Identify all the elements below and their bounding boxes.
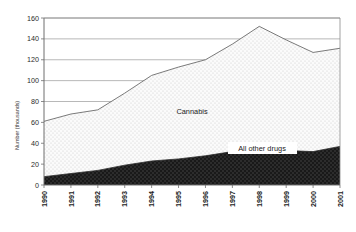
y-tick-label: 80 bbox=[31, 97, 39, 106]
x-tick-label-1998: 1998 bbox=[255, 191, 264, 207]
series-label-all-other-drugs: All other drugs bbox=[238, 144, 286, 153]
y-axis-label: Number (thousands) bbox=[14, 101, 20, 150]
x-axis-ticks: 1990199119921993199419951996199719981999… bbox=[40, 185, 345, 207]
x-tick-label-1996: 1996 bbox=[201, 191, 210, 207]
x-tick-label-1992: 1992 bbox=[93, 191, 102, 207]
x-tick-label-2000: 2000 bbox=[309, 191, 318, 207]
x-tick-label-1999: 1999 bbox=[282, 191, 291, 207]
stacked-area-chart: 020406080100120140160 199019911992199319… bbox=[0, 0, 356, 232]
y-tick-label: 120 bbox=[27, 55, 39, 64]
y-axis-ticks: 020406080100120140160 bbox=[27, 14, 44, 190]
x-tick-label-1990: 1990 bbox=[40, 191, 49, 207]
y-tick-label: 40 bbox=[31, 139, 39, 148]
x-tick-label-1993: 1993 bbox=[120, 191, 129, 207]
y-tick-label: 100 bbox=[27, 76, 39, 85]
x-tick-label-1995: 1995 bbox=[174, 191, 183, 207]
chart-canvas: 020406080100120140160 199019911992199319… bbox=[0, 0, 356, 232]
series-label-all-other-drugs-group: All other drugs bbox=[228, 142, 297, 154]
y-tick-label: 140 bbox=[27, 34, 39, 43]
y-tick-label: 60 bbox=[31, 118, 39, 127]
x-tick-label-1994: 1994 bbox=[147, 191, 156, 207]
x-tick-label-1997: 1997 bbox=[228, 191, 237, 207]
y-tick-label: 0 bbox=[35, 181, 39, 190]
x-tick-label-1991: 1991 bbox=[67, 191, 76, 207]
y-tick-label: 160 bbox=[27, 14, 39, 23]
x-tick-label-2001: 2001 bbox=[336, 191, 345, 207]
series-label-cannabis: Cannabis bbox=[176, 107, 208, 116]
y-tick-label: 20 bbox=[31, 160, 39, 169]
